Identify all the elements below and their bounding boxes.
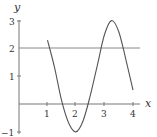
y-axis-label: y — [13, 1, 21, 14]
chart: y x 3 2 1 −1 1 2 3 4 — [0, 0, 157, 137]
ytick-label: 1 — [9, 72, 15, 82]
xtick-label: 3 — [101, 109, 107, 119]
data-series-curve — [48, 21, 134, 132]
ytick-label: 2 — [9, 44, 15, 54]
ytick-label: 3 — [9, 17, 15, 27]
ytick-label: −1 — [1, 128, 14, 137]
x-axis-label: x — [145, 97, 152, 110]
xtick-label: 1 — [44, 109, 50, 119]
xtick-label: 2 — [72, 109, 78, 119]
xtick-label: 4 — [130, 109, 136, 119]
